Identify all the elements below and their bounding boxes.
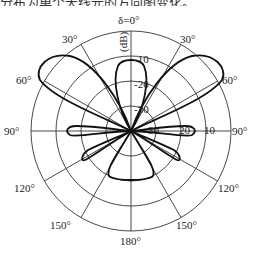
radial-label-right-20: 20 <box>179 124 191 136</box>
angle-label-120-left: 120° <box>14 182 35 194</box>
angle-label-150-left: 150° <box>50 219 71 231</box>
radial-label-top-30: -30 <box>134 103 149 115</box>
radial-label-right-30: 30 <box>148 124 160 136</box>
polar-chart: δ=0° 30° 60° 90° 120° 150° 180° 150° 120… <box>0 0 261 258</box>
radial-label-top-20: -20 <box>134 78 149 90</box>
angle-label-0: δ=0° <box>118 14 139 26</box>
angle-label-60-left: 60° <box>16 74 31 86</box>
angle-label-150-right: 150° <box>176 219 197 231</box>
angle-label-30-left: 30° <box>62 33 77 45</box>
radial-label-top-10: -10 <box>134 53 149 65</box>
radial-label-right-10: 10 <box>204 124 216 136</box>
angle-label-90-left: 90° <box>4 125 19 137</box>
radial-labels: (dB) -10 -20 -30 30 20 10 <box>117 32 216 137</box>
angle-label-180: 180° <box>120 235 141 247</box>
radial-axis-unit: (dB) <box>117 32 130 53</box>
angle-label-90-right: 90° <box>232 125 247 137</box>
angle-label-120-right: 120° <box>218 182 239 194</box>
angle-label-60-right: 60° <box>222 74 237 86</box>
angle-label-30-right: 30° <box>180 33 195 45</box>
